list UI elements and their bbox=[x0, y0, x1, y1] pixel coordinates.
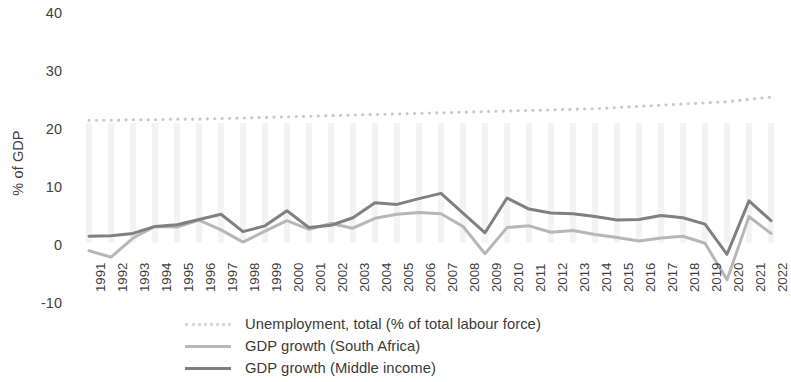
solid-line-swatch bbox=[185, 345, 231, 348]
x-axis-tick: 2005 bbox=[402, 263, 415, 292]
x-axis-tick: 2003 bbox=[358, 263, 371, 292]
legend-item-label: GDP growth (South Africa) bbox=[245, 338, 420, 354]
x-axis-tick: 1996 bbox=[204, 263, 217, 292]
x-axis-tick-labels: 1991199219931994199519961997199819992000… bbox=[75, 248, 781, 310]
x-axis-tick: 1997 bbox=[226, 263, 239, 292]
y-axis-tick: -10 bbox=[41, 296, 62, 311]
x-axis-tick: 1999 bbox=[270, 263, 283, 292]
x-axis-tick: 2018 bbox=[688, 263, 701, 292]
series-line-1 bbox=[89, 97, 771, 120]
y-axis-tick: 20 bbox=[46, 122, 62, 137]
x-axis-tick: 1993 bbox=[138, 263, 151, 292]
x-axis-tick: 1995 bbox=[182, 263, 195, 292]
x-axis-tick: 2009 bbox=[490, 263, 503, 292]
x-axis-tick: 2002 bbox=[336, 263, 349, 292]
x-axis-tick: 1994 bbox=[160, 263, 173, 292]
x-axis-tick: 2008 bbox=[468, 263, 481, 292]
solid-line-swatch bbox=[185, 367, 231, 370]
x-axis-tick: 2015 bbox=[622, 263, 635, 292]
legend-item[interactable]: GDP growth (Middle income) bbox=[185, 357, 705, 379]
x-axis-tick: 2011 bbox=[534, 264, 547, 292]
legend-item-label: GDP growth (Middle income) bbox=[245, 360, 436, 376]
x-axis-tick: 1991 bbox=[94, 263, 107, 292]
legend-item[interactable]: GDP growth (South Africa) bbox=[185, 335, 705, 357]
x-axis-tick: 2020 bbox=[732, 263, 745, 292]
chart-legend: Unemployment, total (% of total labour f… bbox=[185, 313, 705, 379]
x-axis-tick: 2016 bbox=[644, 263, 657, 292]
x-axis-tick: 2001 bbox=[314, 263, 327, 292]
y-axis-tick: 10 bbox=[46, 180, 62, 195]
legend-item[interactable]: Unemployment, total (% of total labour f… bbox=[185, 313, 705, 335]
chart-figure: % of GDP 403020100-10 199119921993199419… bbox=[0, 0, 791, 382]
y-axis-tick-labels: 403020100-10 bbox=[0, 0, 70, 382]
x-axis-tick: 2017 bbox=[666, 263, 679, 292]
x-axis-tick: 1992 bbox=[116, 263, 129, 292]
dotted-line-swatch bbox=[185, 323, 231, 326]
x-axis-tick: 2000 bbox=[292, 263, 305, 292]
y-axis-tick: 30 bbox=[46, 64, 62, 79]
x-axis-tick: 2021 bbox=[754, 263, 767, 292]
x-axis-tick: 2010 bbox=[512, 263, 525, 292]
x-axis-tick: 1998 bbox=[248, 263, 261, 292]
x-axis-tick: 2004 bbox=[380, 263, 393, 292]
x-axis-tick: 2007 bbox=[446, 263, 459, 292]
x-axis-tick: 2006 bbox=[424, 263, 437, 292]
x-axis-tick: 2013 bbox=[578, 263, 591, 292]
x-axis-tick: 2014 bbox=[600, 263, 613, 292]
y-axis-tick: 0 bbox=[54, 238, 62, 253]
y-axis-tick: 40 bbox=[46, 6, 62, 21]
x-axis-tick: 2022 bbox=[776, 263, 789, 292]
x-axis-tick: 2019 bbox=[710, 263, 723, 292]
legend-item-label: Unemployment, total (% of total labour f… bbox=[245, 316, 541, 332]
x-axis-tick: 2012 bbox=[556, 263, 569, 292]
